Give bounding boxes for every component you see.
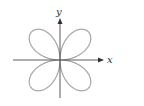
x-axis-arrow-icon bbox=[98, 58, 104, 63]
y-axis-label: y bbox=[55, 6, 62, 17]
x-axis-label: x bbox=[107, 54, 113, 65]
y-axis-arrow-icon bbox=[58, 18, 63, 24]
rose-diagram: x y bbox=[0, 0, 144, 106]
